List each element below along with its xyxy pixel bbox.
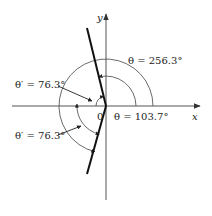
arc-theta-prime-upper xyxy=(96,96,104,106)
x-axis-label: x xyxy=(192,111,198,122)
label-theta-prime-upper: θ′ = 76.3° xyxy=(15,79,65,90)
y-axis-label: y xyxy=(96,12,103,23)
line-theta xyxy=(87,28,106,106)
origin-label: 0 xyxy=(97,111,103,122)
label-theta-prime-lower: θ′ = 76.3° xyxy=(15,130,65,141)
angle-diagram: y x 0 θ = 256.3° θ = 103.7° θ′ = 76.3° θ… xyxy=(0,0,212,216)
label-theta-256: θ = 256.3° xyxy=(128,55,182,66)
label-theta-103: θ = 103.7° xyxy=(114,111,168,122)
arc-theta-prime-lower-inner xyxy=(77,104,99,134)
